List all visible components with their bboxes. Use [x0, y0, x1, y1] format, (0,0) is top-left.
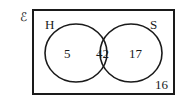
region-only-s: 17	[129, 47, 142, 60]
set-h-label: H	[45, 18, 54, 31]
set-s-label: S	[150, 18, 157, 31]
region-h-and-s: 42	[96, 47, 109, 60]
region-only-h: 5	[64, 47, 71, 60]
venn-diagram	[0, 0, 181, 102]
region-neither: 16	[155, 78, 168, 91]
universal-set-symbol: ℰ	[20, 11, 27, 23]
